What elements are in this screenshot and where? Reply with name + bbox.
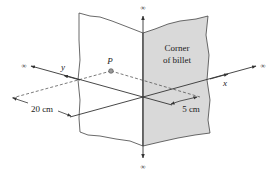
dim-20cm-arrow-right bbox=[58, 111, 71, 116]
billet-corner-diagram: Corner of billet P y x ∞ ∞ ∞ ∞ 20 cm 5 c… bbox=[0, 0, 273, 181]
point-label: P bbox=[106, 56, 113, 66]
x-axis-label: x bbox=[222, 78, 227, 88]
infinity-bottom: ∞ bbox=[141, 163, 146, 171]
infinity-left: ∞ bbox=[22, 62, 27, 70]
point-p-marker bbox=[109, 69, 114, 74]
dim-20cm-arrow-left bbox=[13, 98, 28, 103]
y-axis-arrow-mid bbox=[64, 76, 80, 81]
y-axis-label: y bbox=[60, 62, 65, 72]
panel-label-line1: Corner bbox=[165, 43, 190, 53]
dimension-20cm-label: 20 cm bbox=[31, 104, 53, 114]
infinity-top: ∞ bbox=[141, 4, 146, 12]
dimension-5cm-label: 5 cm bbox=[182, 104, 200, 114]
panel-label-line2: of billet bbox=[163, 55, 192, 65]
infinity-right: ∞ bbox=[261, 62, 266, 70]
left-face-panel bbox=[78, 13, 143, 146]
